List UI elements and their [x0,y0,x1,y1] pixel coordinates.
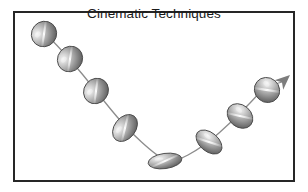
diagram-canvas [13,11,295,182]
figure-root: Cinematic Techniques [0,0,308,192]
ball-3 [78,73,113,109]
ball-5 [147,151,183,171]
ball-sequence-group [26,16,285,171]
ball-4 [107,110,142,147]
trajectory-svg [13,11,295,182]
ball-8 [249,72,285,107]
ball-7 [222,99,258,134]
ball-1 [26,16,62,52]
